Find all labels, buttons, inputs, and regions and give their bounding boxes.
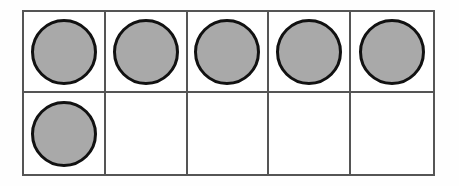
- counter-token[interactable]: [113, 19, 179, 85]
- counter-token[interactable]: [359, 19, 425, 85]
- ten-frame-cell-r1c5[interactable]: [351, 12, 433, 93]
- ten-frame-cell-r2c3[interactable]: [188, 93, 270, 174]
- counter-token[interactable]: [31, 19, 97, 85]
- ten-frame-grid: [22, 10, 435, 176]
- ten-frame-cell-r1c3[interactable]: [188, 12, 270, 93]
- ten-frame-cell-r1c2[interactable]: [106, 12, 188, 93]
- ten-frame-cell-r2c1[interactable]: [24, 93, 106, 174]
- ten-frame-cell-r1c1[interactable]: [24, 12, 106, 93]
- counter-token[interactable]: [194, 19, 260, 85]
- ten-frame-cell-r2c2[interactable]: [106, 93, 188, 174]
- counter-token[interactable]: [31, 101, 97, 167]
- counter-token[interactable]: [276, 19, 342, 85]
- canvas: [0, 0, 459, 186]
- ten-frame-cell-r2c5[interactable]: [351, 93, 433, 174]
- ten-frame-cell-r2c4[interactable]: [269, 93, 351, 174]
- ten-frame-cell-r1c4[interactable]: [269, 12, 351, 93]
